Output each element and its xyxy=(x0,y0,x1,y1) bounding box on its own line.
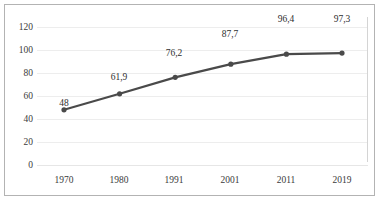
x-axis-tick-label: 1980 xyxy=(96,176,142,186)
data-label: 48 xyxy=(44,99,84,109)
data-label: 87,7 xyxy=(210,30,250,40)
x-axis-tick-label: 2001 xyxy=(207,176,253,186)
data-point-marker xyxy=(228,62,233,67)
data-label: 96,4 xyxy=(266,15,306,25)
x-axis-tick-label: 2011 xyxy=(263,176,309,186)
data-label: 76,2 xyxy=(154,49,194,59)
data-label: 97,3 xyxy=(322,15,362,25)
data-label: 61,9 xyxy=(99,73,139,83)
data-point-marker xyxy=(117,91,122,96)
data-point-marker xyxy=(173,75,178,80)
x-axis-tick-label: 2019 xyxy=(319,176,365,186)
chart-container: 120 100 80 60 40 20 0 48 61,9 76,2 87,7 … xyxy=(4,4,375,196)
x-axis-tick-label: 1991 xyxy=(151,176,197,186)
data-point-marker xyxy=(339,51,344,56)
plot-area: 120 100 80 60 40 20 0 48 61,9 76,2 87,7 … xyxy=(5,5,374,195)
data-point-marker xyxy=(284,52,289,57)
x-axis-tick-label: 1970 xyxy=(41,176,87,186)
